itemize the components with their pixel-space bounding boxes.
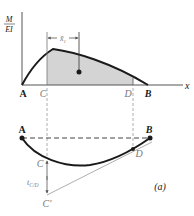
- xbar-subscript: 1: [64, 39, 67, 44]
- shaded-area-c-d: [47, 49, 133, 85]
- y-axis-label-denominator: EI: [4, 25, 13, 34]
- figure-canvas: M EI x A C D B x̄1 A B C D C' tC/D (a): [0, 0, 194, 216]
- point-b-label-upper: B: [144, 88, 152, 99]
- figure-label: (a): [154, 181, 166, 193]
- point-c-prime-label: C': [43, 198, 53, 209]
- point-a-label-lower: A: [18, 124, 26, 135]
- point-d-label-lower: D: [134, 148, 143, 159]
- point-d-label-upper: D: [123, 88, 132, 99]
- point-c-label-upper: C: [40, 88, 47, 99]
- point-a-dot: [20, 136, 25, 141]
- x-axis-label: x: [184, 80, 190, 91]
- point-a-label-upper: A: [19, 88, 27, 99]
- xbar-label: x̄1: [59, 34, 66, 44]
- point-c-label-lower: C: [37, 158, 44, 169]
- deflection-diagram: [20, 88, 153, 195]
- y-axis-label-numerator: M: [5, 15, 14, 24]
- deviation-subscript: C/D: [29, 182, 38, 188]
- deviation-label: tC/D: [27, 178, 38, 188]
- moment-diagram: [22, 12, 183, 85]
- centroid-dot: [77, 70, 82, 75]
- point-b-dot: [148, 136, 153, 141]
- point-b-label-lower: B: [145, 124, 153, 135]
